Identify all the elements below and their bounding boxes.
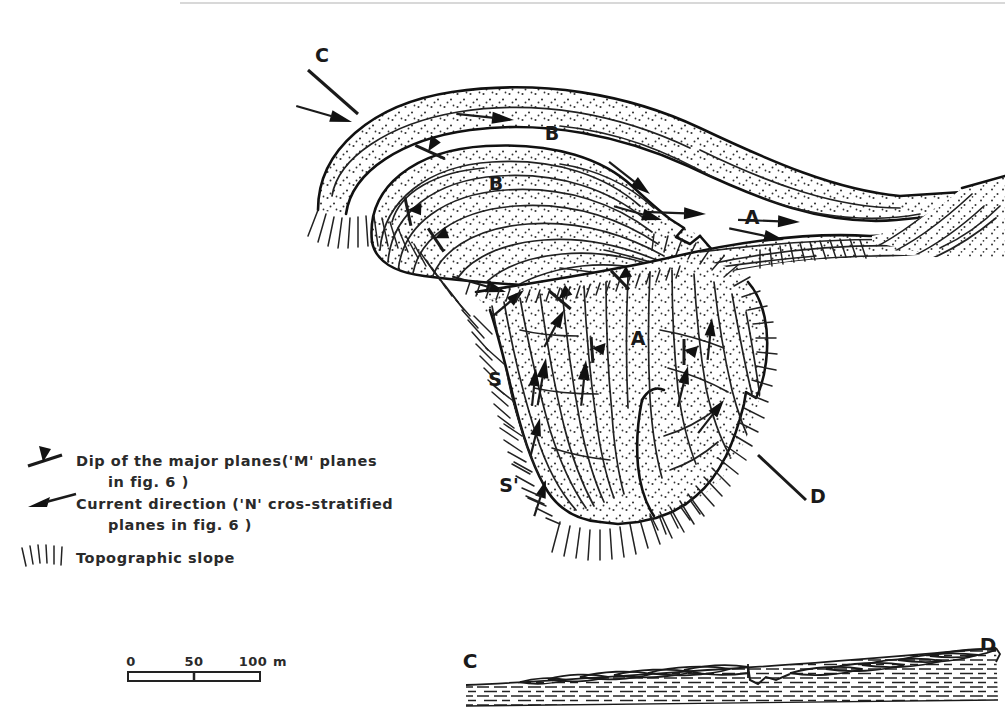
map-label-d: D	[810, 485, 826, 507]
map-label-b-channel: B	[545, 122, 559, 144]
legend-slope-line1: Topographic slope	[76, 550, 235, 566]
cross-section-label-c: C	[463, 649, 478, 673]
figure-root: C B B A A S S' D Dip of the major planes…	[0, 0, 1005, 726]
legend-dip-line1: Dip of the major planes('M' planes	[76, 453, 377, 469]
scale-tick-0: 0	[126, 654, 136, 669]
figure-canvas: C B B A A S S' D Dip of the major planes…	[0, 0, 1005, 726]
map-label-a-channel: A	[745, 206, 760, 228]
legend-current-line2: planes in fig. 6 )	[108, 517, 252, 533]
scale-tick-50: 50	[184, 654, 203, 669]
map-label-s: S	[488, 368, 502, 390]
map-label-b-lobe: B	[489, 172, 503, 194]
legend-current-line1: Current direction ('N' cros-stratified	[76, 496, 393, 512]
legend-dip-line2: in fig. 6 )	[108, 474, 189, 490]
map-label-a-lobe: A	[631, 327, 646, 349]
map-label-c: C	[315, 44, 329, 66]
scale-unit: m	[273, 654, 287, 669]
map-label-s-prime: S'	[499, 474, 519, 496]
scale-tick-100: 100	[239, 654, 268, 669]
